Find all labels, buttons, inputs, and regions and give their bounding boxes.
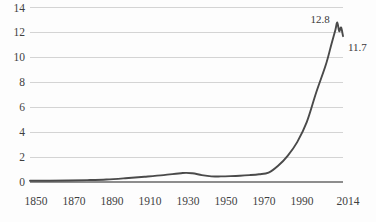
chart-canvas: 14 12 10 8 6 4 2 0 1850 1870 1890 1910 1… (0, 0, 376, 222)
x-tick-label: 1950 (215, 195, 238, 207)
x-tick-label: 1890 (101, 195, 124, 207)
x-tick-label: 1930 (177, 195, 200, 207)
x-tick-label: 2014 (337, 195, 360, 207)
line-chart: 14 12 10 8 6 4 2 0 1850 1870 1890 1910 1… (0, 0, 376, 222)
y-tick-label: 2 (19, 151, 25, 163)
x-tick-label: 1850 (25, 195, 48, 207)
y-tick-label: 4 (19, 126, 25, 138)
y-tick-label: 0 (19, 176, 25, 188)
y-tick-label: 12 (14, 26, 26, 38)
chart-background (0, 0, 376, 222)
y-tick-label: 6 (19, 101, 25, 113)
x-tick-label: 1910 (139, 195, 162, 207)
x-tick-label: 1970 (253, 195, 276, 207)
x-axis-tick-labels: 1850 1870 1890 1910 1930 1950 1970 1990 … (25, 195, 360, 207)
end-value-label: 11.7 (348, 41, 367, 53)
peak-value-label: 12.8 (310, 13, 330, 25)
x-tick-label: 1870 (63, 195, 86, 207)
y-tick-label: 14 (14, 2, 26, 14)
y-tick-label: 8 (19, 76, 25, 88)
y-tick-label: 10 (14, 51, 26, 63)
x-tick-label: 1990 (291, 195, 314, 207)
